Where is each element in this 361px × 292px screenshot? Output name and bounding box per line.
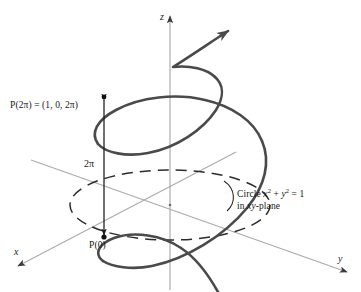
helix-curve bbox=[95, 31, 266, 292]
circle-label-plane-name: xy bbox=[247, 201, 256, 211]
point-p0-label: P(0) bbox=[89, 240, 106, 252]
helix-segment-turn-1 bbox=[95, 97, 262, 144]
y-axis-label: y bbox=[338, 253, 343, 265]
helix-segment-turn-2 bbox=[98, 77, 222, 155]
helix-segment-exit bbox=[173, 31, 228, 77]
point-p2pi-label: P(2π) = (1, 0, 2π) bbox=[10, 100, 78, 112]
height-2pi-label: 2π bbox=[84, 158, 94, 170]
x-axis-line bbox=[18, 152, 236, 266]
x-axis-label: x bbox=[14, 246, 19, 258]
circle-label-plane-prefix: in bbox=[237, 201, 247, 211]
z-axis-label: z bbox=[160, 11, 164, 23]
helix-diagram-svg bbox=[0, 0, 361, 292]
point-p2pi-marker bbox=[102, 95, 107, 100]
circle-label-plane-suffix: -plane bbox=[256, 201, 280, 211]
circle-label-leader bbox=[224, 181, 233, 211]
point-p0-marker bbox=[101, 234, 106, 239]
circle-equation-label: Circle x2 + y2 = 1 in xy-plane bbox=[237, 189, 353, 212]
circle-label-equals: = 1 bbox=[289, 189, 304, 199]
helix-figure: P(2π) = (1, 0, 2π) 2π P(0) Circle x2 + y… bbox=[0, 0, 361, 292]
circle-label-prefix: Circle bbox=[237, 189, 263, 199]
circle-label-plus: + bbox=[271, 189, 281, 199]
origin-marker bbox=[169, 204, 172, 207]
